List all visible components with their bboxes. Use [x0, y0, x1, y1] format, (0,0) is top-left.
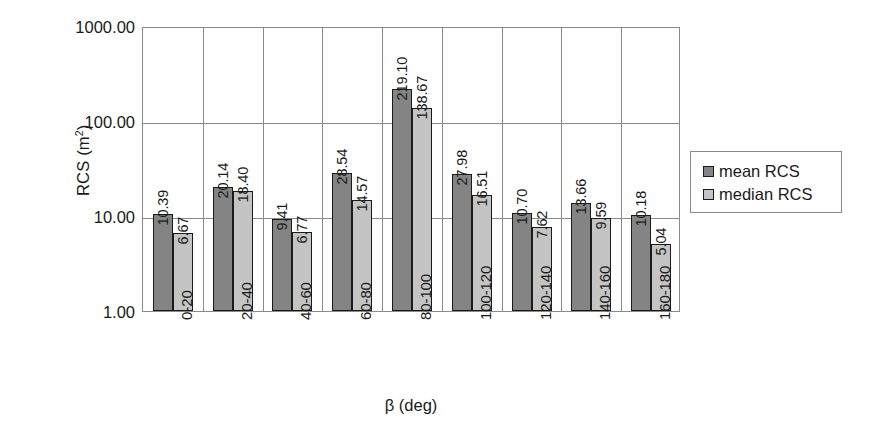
y-axis-tick-label: 100.00 [20, 114, 135, 131]
bar-value-label: 20.14 [215, 163, 230, 199]
legend-label-mean: mean RCS [719, 163, 800, 180]
bar-mean [571, 203, 591, 311]
bar-group: 219.10138.67 [382, 28, 442, 311]
bar-group: 20.1418.40 [203, 28, 263, 311]
x-axis-tick-label: 80-100 [418, 274, 433, 320]
bar-group: 9.416.77 [263, 28, 323, 311]
chart-figure: RCS (m2) 1000.00100.0010.001.00 10.396.6… [0, 0, 880, 434]
bar-mean [631, 215, 651, 311]
bar-value-label: 10.39 [155, 190, 170, 226]
x-axis-tick-label: 20-40 [239, 282, 254, 320]
legend-item-median-rcs: median RCS [703, 183, 841, 206]
bar-value-label: 9.59 [594, 201, 609, 229]
bar-mean [213, 187, 233, 311]
bar-mean [153, 214, 173, 311]
bar-value-label: 16.51 [474, 171, 489, 207]
bar-mean [272, 219, 292, 311]
x-axis-tick-label: 0-20 [179, 290, 194, 320]
x-axis-title: β (deg) [142, 396, 680, 415]
y-axis-tick-label: 1.00 [20, 304, 135, 321]
legend-item-mean-rcs: mean RCS [703, 160, 841, 183]
y-axis-tick-label: 10.00 [20, 209, 135, 226]
chart-legend: mean RCS median RCS [690, 151, 842, 213]
bar-value-label: 14.57 [355, 176, 370, 212]
x-axis-tick-label: 120-140 [538, 266, 553, 320]
bar-value-label: 18.40 [235, 167, 250, 203]
x-axis-tick-label: 60-80 [358, 282, 373, 320]
x-axis-tick-label: 40-60 [298, 282, 313, 320]
bar-value-label: 9.41 [275, 202, 290, 230]
y-axis-tick-labels: 1000.00100.0010.001.00 [20, 0, 135, 434]
x-axis-tick-label: 160-180 [657, 266, 672, 320]
y-axis-tick-label: 1000.00 [20, 19, 135, 36]
bar-mean [452, 174, 472, 311]
bar-value-label: 13.66 [574, 179, 589, 215]
bar-value-label: 5.04 [654, 228, 669, 256]
bar-group: 10.396.67 [143, 28, 203, 311]
bar-mean [512, 213, 532, 311]
legend-label-median: median RCS [719, 186, 813, 203]
bar-value-label: 10.18 [634, 191, 649, 227]
bar-mean [332, 173, 352, 311]
bar-value-label: 27.98 [454, 149, 469, 185]
x-axis-tick-label: 100-120 [478, 266, 493, 320]
legend-swatch-median-icon [703, 189, 714, 200]
bar-value-label: 6.77 [295, 216, 310, 244]
bar-value-label: 219.10 [394, 56, 409, 100]
bar-group: 28.5414.57 [322, 28, 382, 311]
bar-value-label: 7.62 [534, 211, 549, 239]
bar-value-label: 138.67 [414, 75, 429, 119]
x-axis-tick-label: 140-160 [597, 266, 612, 320]
bar-value-label: 6.67 [175, 216, 190, 244]
bar-mean [392, 89, 412, 311]
bar-value-label: 28.54 [335, 148, 350, 184]
legend-swatch-mean-icon [703, 166, 714, 177]
bar-value-label: 10.70 [514, 189, 529, 225]
